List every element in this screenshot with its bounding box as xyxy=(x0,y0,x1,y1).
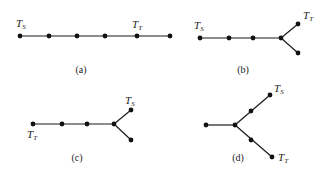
diagram-c: TS TT (c) xyxy=(27,94,135,164)
node xyxy=(31,122,36,127)
node xyxy=(296,51,301,56)
node xyxy=(279,36,284,41)
node xyxy=(135,34,140,39)
node xyxy=(129,108,134,113)
edge xyxy=(281,24,298,38)
diagram-b: TS TT (b) xyxy=(194,9,314,76)
target-label: TT xyxy=(27,128,38,142)
node xyxy=(233,123,238,128)
node xyxy=(129,138,134,143)
node xyxy=(268,93,273,98)
node xyxy=(296,22,301,27)
caption-a: (a) xyxy=(75,64,86,76)
node xyxy=(103,34,108,39)
edge xyxy=(281,38,298,53)
target-label: TT xyxy=(132,18,143,32)
source-label: TS xyxy=(125,94,135,108)
source-label: TS xyxy=(194,19,204,33)
node xyxy=(112,122,117,127)
tree-diagrams: TS TT (a) TS TT (b) TS TT (c) xyxy=(0,0,328,176)
node xyxy=(227,36,232,41)
node xyxy=(249,109,254,114)
source-label: TS xyxy=(274,82,284,96)
node xyxy=(251,36,256,41)
target-label: TT xyxy=(278,151,289,165)
node xyxy=(18,34,23,39)
edge xyxy=(114,110,131,124)
caption-c: (c) xyxy=(71,152,82,164)
target-label: TT xyxy=(303,9,314,23)
node xyxy=(204,123,209,128)
diagram-a: TS TT (a) xyxy=(16,17,172,76)
source-label: TS xyxy=(16,17,26,31)
node xyxy=(198,36,203,41)
node xyxy=(47,34,52,39)
node xyxy=(168,34,173,39)
diagram-d: TS TT (d) xyxy=(204,82,290,165)
node xyxy=(75,34,80,39)
edge xyxy=(114,124,131,140)
node xyxy=(249,138,254,143)
node xyxy=(85,122,90,127)
node xyxy=(60,122,65,127)
caption-d: (d) xyxy=(232,152,244,164)
figure: TS TT (a) TS TT (b) TS TT (c) xyxy=(0,0,328,176)
caption-b: (b) xyxy=(237,64,249,76)
node xyxy=(270,155,275,160)
